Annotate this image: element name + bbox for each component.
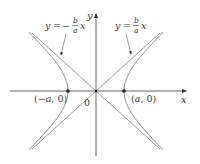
svg-text:a: a (73, 26, 77, 35)
hyperbola-figure: y x 0 (−a, 0) (a, 0) y = − b a x y = b a… (0, 0, 200, 164)
svg-text:x: x (141, 20, 147, 31)
asymptote-negative-pointer (61, 34, 66, 55)
svg-text:x: x (80, 20, 86, 31)
x-axis-label: x (181, 94, 187, 105)
svg-text:=: = (123, 20, 131, 31)
svg-text:y: y (114, 20, 121, 31)
svg-text:=: = (53, 20, 61, 31)
svg-text:−: − (62, 20, 70, 31)
asymptote-positive-label: y = b a x (114, 16, 147, 35)
vertex-right-point (122, 89, 126, 93)
vertex-left-label: (−a, 0) (34, 93, 67, 104)
vertex-right-label: (a, 0) (131, 93, 156, 104)
origin-label: 0 (84, 97, 90, 108)
asymptote-positive-pointer (126, 34, 131, 54)
svg-text:b: b (73, 16, 78, 25)
svg-text:b: b (134, 16, 139, 25)
asymptote-negative-label: y = − b a x (44, 16, 86, 35)
svg-text:y: y (44, 20, 51, 31)
svg-text:a: a (134, 26, 138, 35)
origin-point (95, 90, 97, 92)
y-axis-label: y (86, 10, 93, 21)
